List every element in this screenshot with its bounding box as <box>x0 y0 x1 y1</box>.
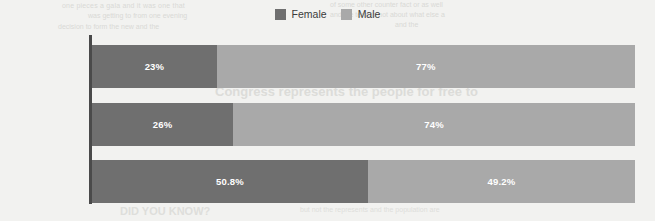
bar-segment-male-us-population[interactable]: 49.2% <box>368 160 635 203</box>
bar-row-us-population[interactable]: U.S. population 50.8% 49.2% <box>92 160 635 203</box>
bar-value-male-senate: 74% <box>424 119 444 130</box>
bar-segment-female-house[interactable]: 23% <box>92 45 217 88</box>
bar-value-female-senate: 26% <box>153 119 173 130</box>
bar-value-male-us-population: 49.2% <box>487 176 515 187</box>
bar-segment-female-us-population[interactable]: 50.8% <box>92 160 368 203</box>
legend-label-female: Female <box>292 9 327 20</box>
bar-row-senate[interactable]: Senate 26% 74% <box>92 103 635 146</box>
bar-segment-female-senate[interactable]: 26% <box>92 103 233 146</box>
chart-legend: Female Male <box>0 9 655 20</box>
legend-item-male[interactable]: Male <box>341 9 381 20</box>
bar-segment-male-house[interactable]: 77% <box>217 45 635 88</box>
legend-swatch-icon-female <box>275 9 286 20</box>
stacked-bar-chart: Female Male House 23% 77% Senate 26% 74%… <box>0 0 655 221</box>
bar-value-female-house: 23% <box>145 61 165 72</box>
bar-row-house[interactable]: House 23% 77% <box>92 45 635 88</box>
legend-swatch-icon-male <box>341 9 352 20</box>
legend-label-male: Male <box>358 9 381 20</box>
bar-segment-male-senate[interactable]: 74% <box>233 103 635 146</box>
legend-item-female[interactable]: Female <box>275 9 327 20</box>
bar-value-male-house: 77% <box>416 61 436 72</box>
bar-value-female-us-population: 50.8% <box>216 176 244 187</box>
